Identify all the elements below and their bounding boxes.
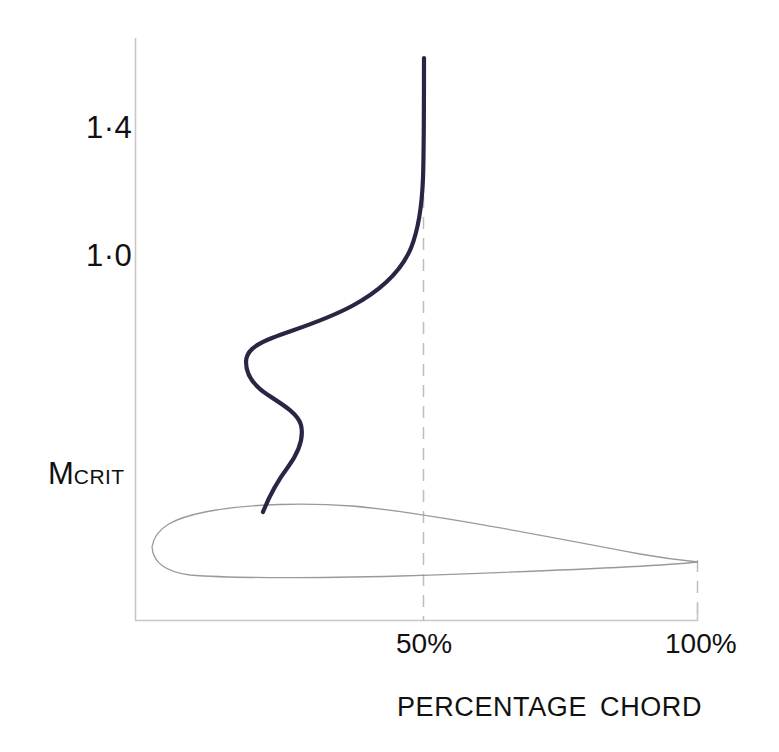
y-axis-tick-label-1-4: 1·4 (86, 112, 132, 143)
x-axis-title-word-1: PERCENTAGE (397, 692, 587, 722)
y-axis-tick-label-1-0: 1·0 (86, 240, 132, 271)
x-axis-title: PERCENTAGECHORD (397, 694, 702, 721)
x-axis-tick-label-100-percent: 100% (665, 630, 737, 658)
airfoil-section-outline (152, 504, 698, 578)
critical-mach-curve (246, 58, 424, 512)
chart-figure: 1·4 1·0 MCRIT 50% 100% PERCENTAGECHORD (0, 0, 779, 752)
m-crit-letter: M (48, 456, 74, 491)
m-crit-subscript: CRIT (74, 465, 125, 488)
x-axis-tick-label-50-percent: 50% (396, 630, 452, 658)
x-axis-title-word-2: CHORD (600, 692, 702, 722)
y-axis-label-m-crit: MCRIT (48, 458, 124, 489)
